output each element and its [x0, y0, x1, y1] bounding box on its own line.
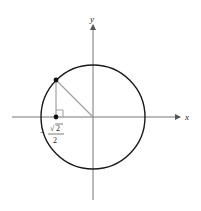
x-axis-label: x	[184, 112, 189, 122]
unit-circle-diagram: y x − √ 2 2	[0, 0, 201, 211]
point-on-circle	[54, 78, 59, 83]
point-on-axis	[54, 115, 59, 120]
radius-segment	[56, 80, 93, 117]
y-axis-label: y	[89, 14, 94, 24]
denominator: 2	[53, 136, 57, 145]
sqrt-symbol: √	[50, 124, 55, 133]
minus-sign: −	[40, 128, 45, 137]
radicand: 2	[56, 124, 60, 133]
